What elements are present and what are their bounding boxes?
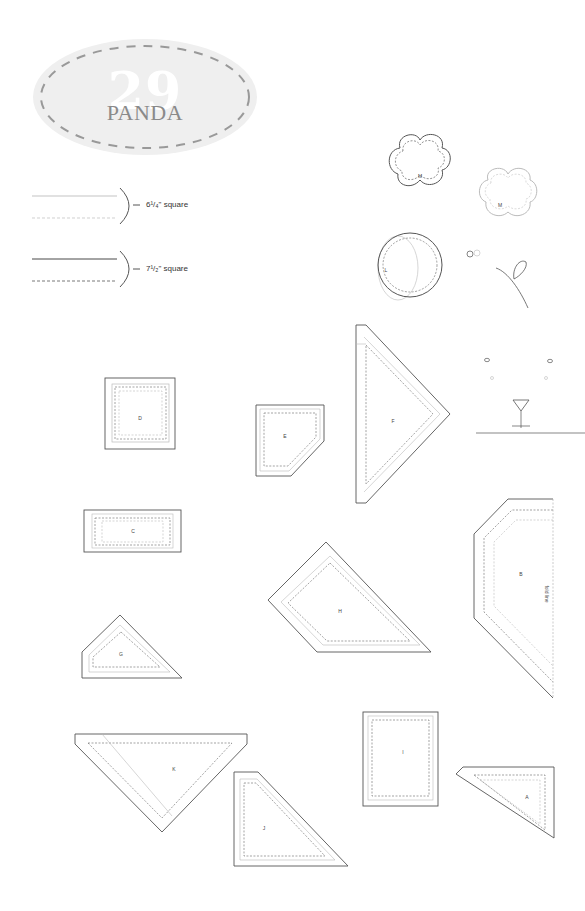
label-l: L bbox=[385, 267, 388, 273]
piece-a bbox=[456, 767, 554, 838]
label-i: I bbox=[402, 749, 403, 755]
label-b: B bbox=[519, 571, 522, 577]
decor-eyes-leaf bbox=[467, 250, 528, 308]
pattern-name: PANDA bbox=[33, 100, 257, 126]
piece-i bbox=[363, 712, 438, 806]
label-d: D bbox=[138, 415, 142, 421]
label-m: M bbox=[418, 173, 422, 179]
piece-h bbox=[268, 542, 431, 652]
piece-e bbox=[256, 405, 324, 476]
label-h: H bbox=[338, 608, 342, 614]
piece-m-light bbox=[479, 168, 536, 215]
legend-dark bbox=[32, 251, 140, 287]
fold-line-label: fold line bbox=[544, 585, 550, 602]
label-a: A bbox=[525, 794, 528, 800]
piece-b bbox=[474, 499, 553, 698]
piece-g bbox=[82, 615, 182, 678]
label-f: F bbox=[391, 418, 394, 424]
label-k: K bbox=[172, 766, 175, 772]
legend-light bbox=[32, 188, 140, 224]
piece-d bbox=[105, 378, 175, 449]
label-g: G bbox=[119, 651, 123, 657]
label-c: C bbox=[131, 528, 135, 534]
piece-k bbox=[75, 734, 247, 832]
label-m2: M bbox=[498, 202, 502, 208]
label-e: E bbox=[283, 433, 286, 439]
piece-j bbox=[234, 772, 348, 866]
title-badge: 29 PANDA bbox=[33, 38, 257, 156]
legend-label-light: 6¹/₄" square bbox=[146, 200, 188, 209]
legend-label-dark: 7¹/₂" square bbox=[146, 264, 188, 273]
decor-face bbox=[476, 358, 585, 433]
label-j: J bbox=[263, 825, 266, 831]
piece-f bbox=[356, 325, 450, 503]
